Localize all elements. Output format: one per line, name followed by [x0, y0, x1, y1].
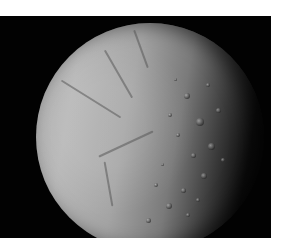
surface-crater [174, 78, 177, 81]
surface-crater [191, 153, 196, 158]
surface-crack [104, 162, 114, 207]
surface-crater [221, 158, 225, 162]
surface-crater [208, 143, 215, 150]
surface-crater [184, 93, 190, 99]
surface-crater [166, 203, 172, 209]
surface-crater [196, 118, 204, 126]
surface-crack [61, 80, 121, 119]
surface-crack [104, 50, 133, 99]
surface-crater [146, 218, 151, 223]
surface-crater [216, 108, 221, 113]
surface-crater [206, 83, 210, 87]
surface-crater [168, 113, 172, 117]
surface-crater [161, 163, 164, 166]
surface-crater [154, 183, 158, 187]
surface-crater [181, 188, 186, 193]
moon-disc [36, 23, 264, 238]
surface-crater [176, 133, 180, 137]
surface-crater [196, 198, 200, 202]
surface-crack [98, 130, 153, 157]
photo-frame [0, 16, 271, 238]
surface-crack [133, 30, 149, 68]
surface-crater [201, 173, 207, 179]
surface-crater [186, 213, 190, 217]
